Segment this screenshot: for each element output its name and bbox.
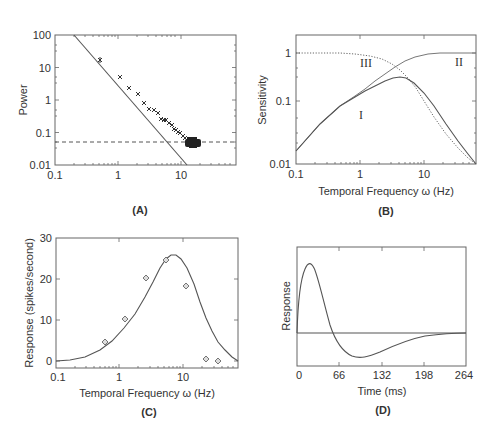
xtick-10: 10 xyxy=(177,371,189,383)
panel-b-y-tick-labels: 1 0.1 0.01 xyxy=(270,47,291,170)
ytick-0-1: 0.1 xyxy=(276,95,291,107)
panel-d-x-tick-labels: 0 66 132 198 264 xyxy=(296,369,473,381)
ytick-30: 30 xyxy=(40,232,52,244)
panel-c: 30 20 10 0 0.1 1 10 Temporal Frequency ω… xyxy=(23,232,238,418)
panel-c-ticks xyxy=(56,238,238,368)
panel-b-annotation-iii: III xyxy=(360,56,372,70)
panel-a-data-markers xyxy=(98,57,187,140)
ytick-20: 20 xyxy=(40,273,52,285)
xtick-0-1: 0.1 xyxy=(50,371,65,383)
xtick-132: 132 xyxy=(373,369,391,381)
panel-b-annotation-i: I xyxy=(359,108,363,122)
panel-a-ticks xyxy=(55,35,236,165)
xtick-10: 10 xyxy=(175,169,187,181)
xtick-1: 1 xyxy=(116,371,122,383)
panel-b-x-tick-labels: 0.1 1 10 xyxy=(288,168,430,180)
ytick-10: 10 xyxy=(39,62,51,74)
xtick-10: 10 xyxy=(418,168,430,180)
ytick-100: 100 xyxy=(33,29,51,41)
xtick-198: 198 xyxy=(415,369,433,381)
panel-b-label: (B) xyxy=(378,205,394,217)
ytick-0: 0 xyxy=(46,355,52,367)
panel-d-frame xyxy=(297,247,466,366)
xtick-66: 66 xyxy=(333,369,345,381)
panel-a-y-axis-label: Power xyxy=(17,84,29,116)
panel-a-fit-line xyxy=(74,35,187,165)
panel-b-annotation-ii: II xyxy=(455,55,463,69)
panel-a-x-tick-labels: 0.1 1 10 xyxy=(47,169,187,181)
panel-c-label: (C) xyxy=(141,406,157,418)
panel-b-curve-iii xyxy=(296,53,476,164)
panel-c-y-axis-label: Response (spikes/second) xyxy=(23,238,35,368)
panel-a-label: (A) xyxy=(132,204,148,216)
panel-d: 0 66 132 198 264 Time (ms) Response (D) xyxy=(280,247,473,416)
panel-a-data-cluster xyxy=(185,137,201,148)
ytick-0-1: 0.1 xyxy=(36,127,51,139)
panel-a-y-tick-labels: 100 10 1 0.1 0.01 xyxy=(30,29,51,171)
panel-b-ticks xyxy=(296,35,476,164)
panel-b-y-axis-label: Sensitivity xyxy=(256,75,268,125)
xtick-0-1: 0.1 xyxy=(47,169,62,181)
figure: 100 10 1 0.1 0.01 0.1 1 10 Power xyxy=(0,0,492,429)
panel-c-frame xyxy=(56,238,238,368)
panel-d-impulse-response-curve xyxy=(297,264,466,358)
panel-d-x-axis-label: Time (ms) xyxy=(357,385,406,397)
panel-b-frame xyxy=(296,35,476,164)
xtick-0: 0 xyxy=(296,369,302,381)
panel-c-fit-curve xyxy=(56,255,238,361)
xtick-1: 1 xyxy=(115,169,121,181)
panel-b: 1 0.1 0.01 0.1 1 10 Temporal Frequency ω… xyxy=(256,35,476,217)
panel-d-y-axis-label: Response xyxy=(280,281,292,331)
panel-c-x-axis-label: Temporal Frequency ω (Hz) xyxy=(79,387,215,399)
ytick-1: 1 xyxy=(285,47,291,59)
panel-c-y-tick-labels: 30 20 10 0 xyxy=(40,232,52,367)
panel-a: 100 10 1 0.1 0.01 0.1 1 10 Power xyxy=(17,29,236,216)
panel-b-x-axis-label: Temporal Frequency ω (Hz) xyxy=(318,185,454,197)
panel-d-ticks xyxy=(339,247,424,366)
panel-b-curve-i xyxy=(296,77,476,164)
panel-d-label: (D) xyxy=(375,404,391,416)
xtick-0-1: 0.1 xyxy=(288,168,303,180)
panel-c-x-tick-labels: 0.1 1 10 xyxy=(50,371,189,383)
ytick-1: 1 xyxy=(45,94,51,106)
ytick-10: 10 xyxy=(40,314,52,326)
xtick-1: 1 xyxy=(357,168,363,180)
panel-b-curve-ii xyxy=(296,53,476,151)
xtick-264: 264 xyxy=(455,369,473,381)
panel-a-frame xyxy=(55,35,236,165)
